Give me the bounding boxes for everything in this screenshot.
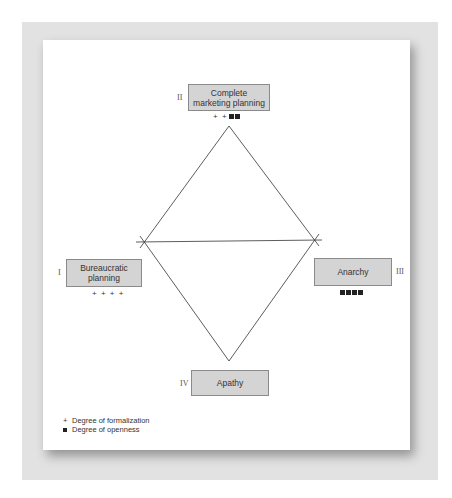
legend-item-formalization: + Degree of formalization — [63, 416, 150, 425]
legend: + Degree of formalization Degree of open… — [63, 416, 150, 434]
roman-IV: IV — [180, 379, 188, 388]
node-III-marks — [339, 288, 363, 297]
roman-II: II — [177, 93, 182, 102]
legend-item-openness: Degree of openness — [63, 425, 150, 434]
node-II-marks: + + — [213, 112, 240, 121]
formalization-marks: + + + + — [92, 289, 124, 298]
node-anarchy: Anarchy — [314, 258, 392, 286]
openness-square-icon — [346, 290, 351, 295]
square-icon — [63, 425, 72, 434]
node-apathy: Apathy — [191, 370, 269, 396]
node-complete-marketing-planning: Complete marketing planning — [188, 84, 270, 111]
roman-III: III — [396, 267, 404, 276]
node-I-marks: + + + + — [92, 289, 124, 298]
legend-label: Degree of openness — [72, 425, 140, 434]
node-label: Anarchy — [337, 267, 368, 277]
node-label: Apathy — [217, 378, 243, 388]
roman-I: I — [58, 268, 61, 277]
legend-label: Degree of formalization — [72, 416, 150, 425]
node-label: Bureaucratic planning — [71, 263, 137, 283]
openness-square-icon — [358, 290, 363, 295]
node-bureaucratic-planning: Bureaucratic planning — [66, 259, 142, 287]
openness-square-icon — [340, 290, 345, 295]
formalization-marks: + + — [213, 112, 228, 121]
openness-square-icon — [235, 114, 240, 119]
openness-square-icon — [229, 114, 234, 119]
openness-square-icon — [352, 290, 357, 295]
plus-icon: + — [63, 416, 72, 425]
node-label: Complete marketing planning — [193, 88, 265, 108]
